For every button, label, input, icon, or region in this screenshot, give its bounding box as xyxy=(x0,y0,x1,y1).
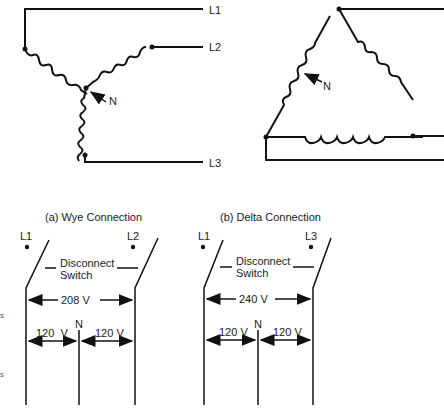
wye-neutral-label: N xyxy=(109,95,117,107)
panel-a-line-voltage: 208 V xyxy=(61,294,90,306)
wye-neutral-arrow xyxy=(91,92,106,102)
panel-a-left-line-label: L1 xyxy=(20,230,32,242)
wye-label-l2: L2 xyxy=(209,41,221,53)
panel-a-title: (a) Wye Connection xyxy=(45,211,142,223)
delta-neutral-label: N xyxy=(323,80,331,92)
delta-coil-bottom xyxy=(266,137,423,143)
panel-a-left-voltage: 120 V xyxy=(36,327,68,339)
wye-coil-l2 xyxy=(86,47,146,88)
wye-l3-wire xyxy=(85,155,203,162)
panel-b-left-switch-blade[interactable] xyxy=(204,240,223,405)
panel-a-neutral-label: N xyxy=(75,318,83,330)
panel-a-right-line-label: L2 xyxy=(127,230,139,242)
panel-b-line-voltage: 240 V xyxy=(239,293,268,305)
panel-a-right-switch-blade[interactable] xyxy=(135,238,158,405)
panel-b-neutral-label: N xyxy=(254,318,262,330)
wye-nodes xyxy=(23,45,155,158)
panel-a-switch-label-1: Disconnect xyxy=(60,257,114,269)
panel-b-left-line-label: L1 xyxy=(198,230,210,242)
panel-b-right-voltage: 120 V xyxy=(273,326,302,338)
panel-b-right-line-label: L3 xyxy=(305,230,317,242)
panel-a-left-terminal xyxy=(25,245,29,249)
delta-neutral-arrow xyxy=(305,74,322,82)
delta-diagram xyxy=(266,9,444,160)
panel-b-switch-label-1: Disconnect xyxy=(236,255,290,267)
wye-label-l1: L1 xyxy=(209,4,221,16)
panel-b-right-switch-blade[interactable] xyxy=(313,238,331,405)
panel-a-right-terminal xyxy=(131,245,135,249)
edge-artifact-2: s xyxy=(0,370,4,379)
panel-a-wye-connection: (a) Wye Connection L1 L2 Disconnect Swit… xyxy=(20,211,158,405)
panel-b-delta-connection: (b) Delta Connection L1 L3 Disconnect Sw… xyxy=(198,211,331,405)
delta-nodes xyxy=(264,7,416,140)
transformer-connection-diagram: N L1 L2 L3 N (a) Wye Connection L1 L2 xyxy=(0,0,444,408)
wye-coil-l3 xyxy=(78,88,86,161)
panel-a-right-voltage: 120 V xyxy=(95,327,124,339)
wye-coil-l1 xyxy=(25,49,87,94)
wye-label-l3: L3 xyxy=(209,157,221,169)
edge-artifact-1: s xyxy=(0,311,4,320)
panel-b-left-voltage: 120 V xyxy=(219,326,248,338)
panel-b-title: (b) Delta Connection xyxy=(220,211,321,223)
panel-b-right-terminal xyxy=(309,245,313,249)
wye-l1-wire xyxy=(25,9,203,49)
panel-b-left-terminal xyxy=(201,245,205,249)
delta-coil-right xyxy=(339,9,413,100)
wye-diagram xyxy=(25,9,203,162)
panel-b-switch-label-2: Switch xyxy=(236,267,268,279)
panel-a-switch-label-2: Switch xyxy=(60,269,92,281)
panel-a-left-switch-blade[interactable] xyxy=(26,240,49,405)
delta-coil-left xyxy=(266,16,330,137)
